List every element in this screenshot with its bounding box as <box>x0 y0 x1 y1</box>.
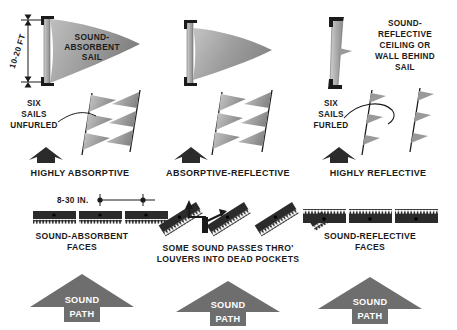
sound-path-label-2: PATH <box>70 309 95 319</box>
reflective-note-line-2: REFLECTIVE <box>378 30 432 39</box>
reflective-face-segment <box>303 209 346 223</box>
sound-path-label-1: SOUND <box>353 297 388 307</box>
dimension-label-spacing: 8-30 IN. <box>57 196 89 205</box>
sound-path-label-2: PATH <box>358 311 383 321</box>
reflective-note-line-1: SOUND- <box>388 19 422 28</box>
caption-absorptive-reflective: ABSORPTIVE-REFLECTIVE <box>166 168 290 178</box>
array-label-line-2: SAILS <box>21 110 47 119</box>
absorbent-face-segment <box>79 211 122 224</box>
sound-path-label-1: SOUND <box>211 300 246 310</box>
absorbent-faces-label-1: SOUND-ABSORBENT <box>36 231 129 241</box>
furled-label-line-1: SIX <box>324 99 338 108</box>
absorbent-face-segments <box>33 211 168 224</box>
reflective-note-line-3: CEILING OR <box>380 41 431 50</box>
sound-path-label-1: SOUND <box>65 295 100 305</box>
louver-note-line-1: SOME SOUND PASSES THRO' <box>162 243 293 253</box>
furled-label-line-2: SAILS <box>318 110 344 119</box>
array-label-line-3: UNFURLED <box>10 121 57 130</box>
sound-path-label-2: PATH <box>216 314 241 324</box>
reflective-note-line-4: WALL BEHIND <box>375 52 435 61</box>
reflective-faces-label-1: SOUND-REFLECTIVE <box>324 231 416 241</box>
reflective-face-segment <box>395 209 438 223</box>
sail-label-line-3: SAIL <box>82 52 102 62</box>
array-label-line-1: SIX <box>27 99 41 108</box>
louver-note-line-2: LOUVERS INTO DEAD POCKETS <box>157 254 299 264</box>
absorbent-face-segment <box>125 211 168 224</box>
reflective-face-segments <box>303 209 438 223</box>
diagram-canvas: 10-20 FT SOUND- ABSORBENT SAIL SIX SAILS <box>0 0 457 330</box>
caption-highly-reflective: HIGHLY REFLECTIVE <box>330 168 427 178</box>
reflective-note-line-5: SAIL <box>395 63 415 72</box>
sail-label-line-1: SOUND- <box>75 32 110 42</box>
absorbent-faces-label-2: FACES <box>67 242 97 252</box>
caption-highly-absorptive: HIGHLY ABSORPTIVE <box>31 168 130 178</box>
reflective-faces-label-2: FACES <box>355 242 385 252</box>
reflective-face-segment <box>349 209 392 223</box>
sail-label-line-2: ABSORBENT <box>64 42 120 52</box>
absorbent-face-segment <box>33 211 76 224</box>
furled-label-line-3: FURLED <box>313 121 348 130</box>
